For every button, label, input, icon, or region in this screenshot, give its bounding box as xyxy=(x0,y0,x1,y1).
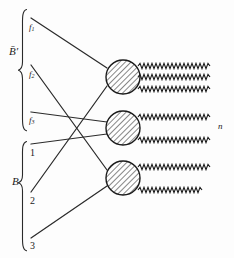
input-label-f2: f2 xyxy=(29,70,35,79)
vertex-nodes xyxy=(106,60,140,195)
vertex-bottom xyxy=(106,161,140,195)
input-label-2: 2 xyxy=(30,196,35,206)
group-label-lower-text: B xyxy=(12,175,19,187)
output-line-3 xyxy=(138,86,210,91)
output-line-7 xyxy=(138,187,202,192)
output-line-4 xyxy=(138,114,210,119)
input-label-1: 1 xyxy=(30,148,35,158)
output-bundle-label: n xyxy=(218,122,223,131)
input-label-f3-sub: 3 xyxy=(32,119,35,125)
input-label-f1-sub: 1 xyxy=(32,26,35,32)
vertex-middle xyxy=(106,111,140,145)
group-label-lower: B xyxy=(12,176,19,187)
output-line-1 xyxy=(138,63,210,68)
group-label-upper-text: B̄′ xyxy=(9,45,18,57)
edge-b2-vtop xyxy=(31,86,107,192)
input-label-f1: f1 xyxy=(29,23,35,32)
group-label-upper: B̄′ xyxy=(9,46,18,57)
input-label-f2-sub: 2 xyxy=(32,73,35,79)
diagram-svg xyxy=(0,0,234,258)
brace-group-lower xyxy=(18,142,26,251)
input-label-f3: f3 xyxy=(29,116,35,125)
output-line-2 xyxy=(138,74,210,79)
output-waves xyxy=(138,63,210,192)
input-edges xyxy=(31,18,107,238)
output-line-6 xyxy=(138,164,210,169)
output-line-5 xyxy=(138,137,210,142)
input-label-3: 3 xyxy=(30,241,35,251)
input-label-1-text: 1 xyxy=(30,147,35,158)
input-label-2-text: 2 xyxy=(30,195,35,206)
brace-group-upper xyxy=(18,10,26,131)
edge-b3-vbottom xyxy=(31,186,107,238)
output-bundle-label-text: n xyxy=(218,121,223,131)
input-label-3-text: 3 xyxy=(30,240,35,251)
edge-f3-vmiddle xyxy=(31,112,107,122)
edge-f1-vtop xyxy=(31,18,107,68)
figure-canvas: B̄′ B f1 f2 f3 1 2 3 n xyxy=(0,0,234,258)
vertex-top xyxy=(106,60,140,94)
